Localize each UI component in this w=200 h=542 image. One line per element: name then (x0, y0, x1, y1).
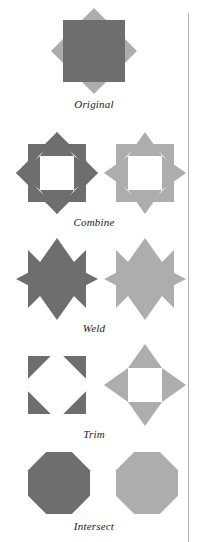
trim-point-west (104, 368, 128, 402)
row-intersect: Intersect (0, 452, 188, 518)
square-shape (63, 20, 125, 82)
point-triangles-icon (104, 344, 186, 426)
trim-corner-ne (63, 356, 86, 379)
octagon-solid-light-path (116, 452, 178, 514)
row-combine: Combine (0, 132, 188, 214)
trim-point-east (162, 368, 186, 402)
shape-weld-result-dark (16, 238, 98, 320)
shape-intersect-result-light (116, 452, 178, 514)
shape-square-and-diamond-overlap (51, 8, 137, 94)
row-weld: Weld (0, 238, 188, 320)
label-weld: Weld (0, 322, 188, 334)
shape-combine-result-light (104, 132, 186, 214)
trim-corner-se (63, 391, 86, 414)
shape-weld-result-light (104, 238, 186, 320)
star8-hollow-light-icon (104, 132, 186, 214)
label-trim: Trim (0, 428, 188, 440)
label-combine: Combine (0, 216, 188, 228)
octagon-solid-dark-icon (28, 452, 90, 514)
shape-operations-figure: Original (0, 0, 200, 542)
trim-corner-sw (28, 391, 51, 414)
shape-trim-result-points (104, 344, 186, 426)
octagon-solid-light-icon (116, 452, 178, 514)
shape-trim-result-corners (16, 344, 98, 426)
star8-hollow-light-hole (121, 149, 169, 197)
row-trim-shapes (0, 344, 188, 426)
square-over-diamond-icon (51, 8, 137, 94)
shape-combine-result-dark (16, 132, 98, 214)
star8-solid-light-path (104, 238, 186, 320)
star8-solid-dark-icon (16, 238, 98, 320)
corner-triangles-icon (16, 344, 98, 426)
star8-hollow-dark-icon (16, 132, 98, 214)
row-combine-shapes (0, 132, 188, 214)
row-original: Original (0, 8, 188, 94)
star8-solid-dark-path (16, 238, 98, 320)
trim-point-north (128, 344, 162, 368)
trim-point-south (128, 402, 162, 426)
label-original: Original (0, 98, 188, 110)
star8-solid-light-icon (104, 238, 186, 320)
row-intersect-shapes (0, 452, 188, 518)
label-intersect: Intersect (0, 520, 188, 532)
octagon-solid-dark-path (28, 452, 90, 514)
row-trim: Trim (0, 344, 188, 426)
star8-hollow-dark-hole (33, 149, 81, 197)
trim-corner-nw (28, 356, 51, 379)
shape-intersect-result-dark (28, 452, 90, 514)
row-original-shapes (0, 8, 188, 94)
vertical-divider-line (188, 13, 189, 542)
row-weld-shapes (0, 238, 188, 320)
